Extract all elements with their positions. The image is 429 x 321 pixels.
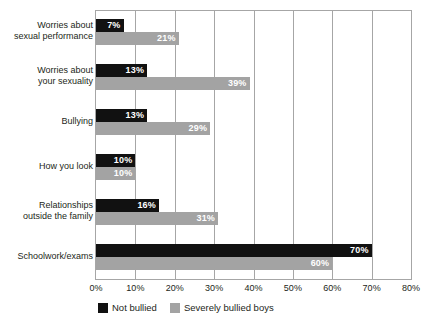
bar-not-bullied: 7% [96, 19, 124, 32]
y-axis-category-label: Relationships outside the family [0, 200, 93, 222]
bar-severely-bullied-boys: 29% [96, 122, 210, 135]
x-axis-tick-40: 40% [244, 283, 262, 293]
y-axis-category-label: Bullying [0, 116, 93, 127]
legend-swatch-gray [170, 303, 180, 313]
bar-not-bullied: 10% [96, 154, 135, 167]
x-axis-tick-60: 60% [323, 283, 341, 293]
y-axis-category-label: Worries about sexual performance [0, 20, 93, 42]
bar-value-label: 39% [228, 79, 250, 88]
bar-group: 7%21% [96, 11, 411, 56]
bar-value-label: 70% [350, 246, 372, 255]
bar-severely-bullied-boys: 10% [96, 167, 135, 180]
legend-item: Not bullied [98, 302, 157, 313]
bar-severely-bullied-boys: 31% [96, 212, 218, 225]
bar-value-label: 60% [311, 259, 333, 268]
y-axis-category-label: How you look [0, 161, 93, 172]
bar-not-bullied: 13% [96, 64, 147, 77]
x-axis-tick-10: 10% [126, 283, 144, 293]
bar-value-label: 31% [196, 214, 218, 223]
y-axis-category-label: Worries about your sexuality [0, 65, 93, 87]
legend-item: Severely bullied boys [170, 302, 274, 313]
bar-not-bullied: 16% [96, 199, 159, 212]
legend-label: Not bullied [112, 302, 157, 313]
plot-area: 7%21%13%39%13%29%10%10%16%31%70%60% [95, 10, 412, 280]
bar-chart: 7%21%13%39%13%29%10%10%16%31%70%60% Worr… [0, 0, 429, 321]
bar-group: 10%10% [96, 146, 411, 191]
bar-value-label: 29% [189, 124, 211, 133]
x-axis-tick-20: 20% [166, 283, 184, 293]
bar-value-label: 10% [114, 156, 136, 165]
bar-severely-bullied-boys: 21% [96, 32, 179, 45]
bar-value-label: 13% [126, 66, 148, 75]
bar-value-label: 7% [107, 21, 123, 30]
x-axis-tick-30: 30% [205, 283, 223, 293]
bar-value-label: 10% [114, 169, 136, 178]
bar-value-label: 21% [157, 34, 179, 43]
x-axis-tick-70: 70% [363, 283, 381, 293]
x-axis-tick-80: 80% [402, 283, 420, 293]
bar-group: 13%39% [96, 56, 411, 101]
legend-swatch-black [98, 303, 108, 313]
bar-group: 70%60% [96, 236, 411, 281]
bar-severely-bullied-boys: 39% [96, 77, 250, 90]
bar-not-bullied: 13% [96, 109, 147, 122]
bar-severely-bullied-boys: 60% [96, 257, 332, 270]
x-axis-tick-50: 50% [284, 283, 302, 293]
bar-value-label: 16% [137, 201, 159, 210]
bar-group: 16%31% [96, 191, 411, 236]
bar-value-label: 13% [126, 111, 148, 120]
chart-legend: Not bulliedSeverely bullied boys [98, 302, 282, 313]
bar-group: 13%29% [96, 101, 411, 146]
y-axis-category-label: Schoolwork/exams [0, 251, 93, 262]
bar-not-bullied: 70% [96, 244, 372, 257]
x-axis-tick-0: 0% [89, 283, 102, 293]
legend-label: Severely bullied boys [184, 302, 274, 313]
